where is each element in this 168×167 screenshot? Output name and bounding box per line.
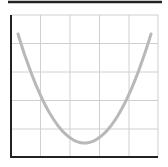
- curve-line: [18, 34, 151, 143]
- parabola-chart: [0, 0, 168, 167]
- grid: [11, 15, 158, 157]
